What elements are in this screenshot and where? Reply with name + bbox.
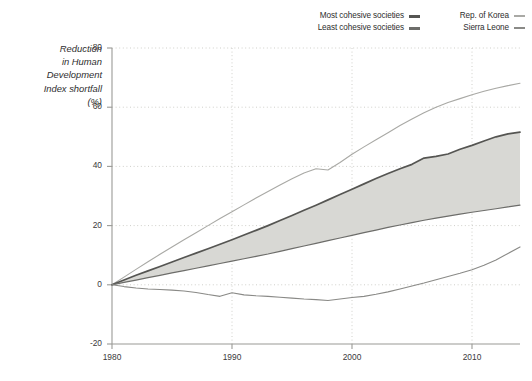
y-tick-label-60: 60 xyxy=(76,101,102,111)
chart-figure: Most cohesive societies Rep. of Korea Le… xyxy=(0,0,532,381)
x-tick-label-2010: 2010 xyxy=(452,352,492,362)
y-tick-label-20: 20 xyxy=(76,220,102,230)
plot-area xyxy=(0,0,532,381)
x-tick-label-1990: 1990 xyxy=(212,352,252,362)
x-tick-label-1980: 1980 xyxy=(92,352,132,362)
x-tick-label-2000: 2000 xyxy=(332,352,372,362)
y-tick-label-0: 0 xyxy=(76,279,102,289)
y-tick-label-40: 40 xyxy=(76,160,102,170)
y-tick-label--20: -20 xyxy=(76,338,102,348)
y-tick-label-80: 80 xyxy=(76,42,102,52)
series-line-sierra-leone xyxy=(112,247,520,301)
